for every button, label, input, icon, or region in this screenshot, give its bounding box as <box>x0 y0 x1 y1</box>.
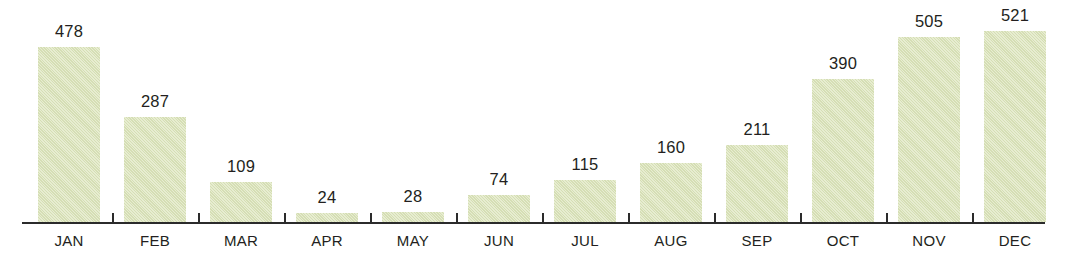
bar-value-label: 390 <box>798 54 888 73</box>
x-axis-category-label: JAN <box>24 232 114 249</box>
x-axis-category-label: MAY <box>368 232 458 249</box>
x-axis-category-label: SEP <box>712 232 802 249</box>
bar-value-label: 24 <box>282 188 372 207</box>
x-axis-category-label: MAR <box>196 232 286 249</box>
x-axis-tick <box>886 213 888 222</box>
bar-value-label: 109 <box>196 157 286 176</box>
bar-value-label: 115 <box>540 155 630 174</box>
bar <box>640 163 702 222</box>
bar-value-label: 160 <box>626 138 716 157</box>
x-axis-tick <box>198 213 200 222</box>
bar <box>38 47 100 222</box>
x-axis-tick <box>972 213 974 222</box>
bar-value-label: 28 <box>368 187 458 206</box>
x-axis-category-label: NOV <box>884 232 974 249</box>
x-axis-tick <box>112 213 114 222</box>
x-axis-tick <box>284 213 286 222</box>
x-axis-tick <box>628 213 630 222</box>
plot-area: 478JAN287FEB109MAR24APR28MAY74JUN115JUL1… <box>0 0 1065 264</box>
bar-value-label: 478 <box>24 22 114 41</box>
bar <box>554 180 616 222</box>
x-axis-line <box>22 222 1045 224</box>
x-axis-category-label: JUN <box>454 232 544 249</box>
x-axis-category-label: FEB <box>110 232 200 249</box>
x-axis-category-label: AUG <box>626 232 716 249</box>
bar <box>898 37 960 222</box>
x-axis-category-label: OCT <box>798 232 888 249</box>
bar-chart: 478JAN287FEB109MAR24APR28MAY74JUN115JUL1… <box>0 0 1065 264</box>
bar-value-label: 287 <box>110 92 200 111</box>
bar <box>296 213 358 222</box>
bar <box>210 182 272 222</box>
x-axis-tick <box>370 213 372 222</box>
bar-value-label: 74 <box>454 170 544 189</box>
bar <box>812 79 874 222</box>
x-axis-tick <box>542 213 544 222</box>
x-axis-tick <box>456 213 458 222</box>
bar <box>468 195 530 222</box>
bar <box>382 212 444 222</box>
x-axis-tick <box>800 213 802 222</box>
x-axis-category-label: JUL <box>540 232 630 249</box>
x-axis-category-label: DEC <box>970 232 1060 249</box>
bar <box>984 31 1046 222</box>
bar <box>124 117 186 222</box>
bar-value-label: 505 <box>884 12 974 31</box>
x-axis-category-label: APR <box>282 232 372 249</box>
bar <box>726 145 788 222</box>
x-axis-tick <box>714 213 716 222</box>
bar-value-label: 211 <box>712 120 802 139</box>
bar-value-label: 521 <box>970 6 1060 25</box>
